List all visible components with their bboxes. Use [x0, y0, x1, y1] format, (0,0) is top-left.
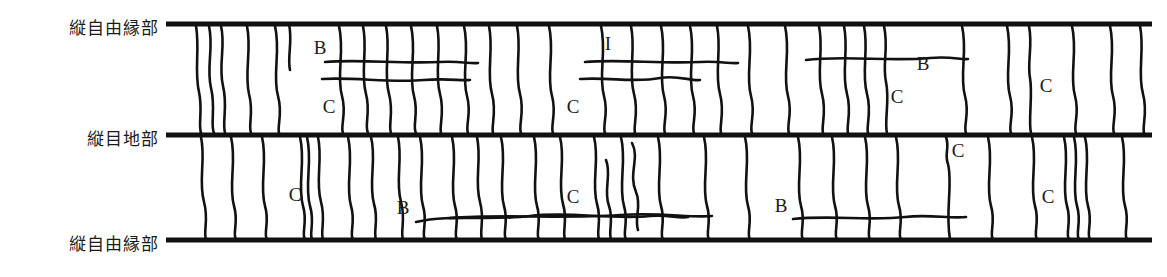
crack-code-b-4: B — [917, 53, 930, 74]
crack-lower-transverse-13 — [534, 137, 539, 239]
crack-lower-transverse-28 — [1032, 137, 1037, 239]
crack-upper-transverse-23 — [844, 26, 849, 133]
crack-upper-transverse-17 — [661, 26, 666, 133]
crack-lower-transverse-2 — [262, 137, 267, 239]
crack-lower-transverse-14 — [560, 137, 565, 239]
crack-lower-transverse-22 — [798, 137, 803, 239]
crack-lower-transverse-1 — [231, 137, 236, 239]
crack-map-figure: 縦自由縁部 縦目地部 縦自由縁部 BCICBCCCBCBCC — [0, 0, 1167, 277]
crack-lower-longitudinal-2 — [793, 216, 966, 219]
lower-band-transverse-cracks — [201, 137, 1127, 239]
crack-lower-transverse-21 — [745, 137, 750, 239]
crack-lower-transverse-31 — [1085, 137, 1090, 239]
crack-lower-transverse-4 — [307, 137, 312, 239]
crack-lower-transverse-12 — [501, 137, 506, 239]
crack-lower-transverse-16 — [606, 160, 611, 239]
crack-upper-transverse-3 — [247, 26, 251, 133]
crack-lower-transverse-25 — [896, 137, 901, 239]
crack-lower-transverse-11 — [477, 137, 482, 239]
crack-lower-transverse-6 — [348, 137, 353, 239]
crack-upper-transverse-12 — [489, 26, 494, 133]
crack-code-b-8: B — [397, 197, 410, 218]
crack-upper-transverse-4 — [275, 26, 280, 133]
crack-lower-transverse-9 — [420, 137, 425, 239]
crack-code-c-5: C — [891, 86, 904, 107]
crack-upper-transverse-19 — [717, 26, 722, 133]
crack-upper-longitudinal-0 — [325, 61, 478, 63]
crack-upper-transverse-25 — [884, 26, 887, 133]
crack-code-i-2: I — [605, 33, 611, 54]
crack-lower-transverse-26 — [946, 137, 950, 239]
crack-code-c-6: C — [1040, 75, 1053, 96]
crack-code-labels-group: BCICBCCCBCBCC — [289, 33, 1055, 218]
crack-upper-longitudinal-2 — [585, 61, 738, 63]
crack-upper-transverse-5 — [289, 24, 290, 70]
crack-lower-transverse-15 — [594, 137, 599, 239]
crack-code-c-3: C — [567, 96, 580, 117]
crack-lower-transverse-29 — [1064, 137, 1069, 239]
crack-lower-transverse-7 — [371, 137, 376, 239]
crack-lower-transverse-23 — [832, 137, 837, 239]
crack-upper-transverse-2 — [221, 26, 225, 133]
crack-code-c-12: C — [1042, 186, 1055, 207]
crack-upper-transverse-20 — [748, 26, 753, 133]
crack-code-b-0: B — [314, 37, 327, 58]
lower-band-longitudinal-cracks — [416, 214, 966, 222]
crack-lower-transverse-32 — [1122, 137, 1127, 239]
crack-lower-transverse-5 — [318, 137, 323, 239]
crack-upper-longitudinal-1 — [322, 79, 470, 81]
crack-lower-transverse-30 — [1074, 137, 1079, 239]
crack-upper-transverse-24 — [864, 26, 869, 133]
crack-upper-transverse-26 — [962, 26, 967, 133]
crack-upper-transverse-29 — [1072, 26, 1077, 133]
crack-upper-transverse-27 — [1007, 26, 1012, 133]
crack-upper-longitudinal-4 — [806, 57, 968, 60]
crack-lower-transverse-24 — [865, 137, 870, 239]
crack-lower-transverse-0 — [201, 137, 206, 239]
crack-lower-transverse-20 — [704, 137, 709, 239]
crack-upper-longitudinal-3 — [580, 77, 700, 80]
crack-upper-transverse-31 — [1140, 26, 1145, 133]
crack-lower-transverse-10 — [452, 137, 457, 239]
crack-upper-transverse-1 — [209, 26, 214, 133]
crack-code-c-11: C — [952, 140, 965, 161]
crack-upper-transverse-14 — [549, 26, 554, 133]
crack-code-b-10: B — [775, 195, 788, 216]
crack-upper-transverse-21 — [785, 26, 790, 133]
crack-upper-transverse-0 — [196, 26, 201, 133]
upper-band-longitudinal-cracks — [322, 57, 968, 80]
crack-lower-transverse-8 — [398, 137, 403, 239]
crack-lower-transverse-27 — [988, 137, 993, 239]
crack-pattern-svg: BCICBCCCBCBCC — [0, 0, 1167, 277]
crack-upper-transverse-22 — [819, 26, 824, 133]
crack-lower-transverse-17 — [621, 137, 626, 239]
crack-code-c-7: C — [289, 184, 302, 205]
crack-upper-transverse-30 — [1110, 26, 1115, 133]
crack-code-c-9: C — [567, 186, 580, 207]
crack-lower-transverse-19 — [658, 137, 663, 239]
crack-upper-transverse-13 — [517, 26, 522, 133]
crack-upper-transverse-28 — [1029, 26, 1031, 133]
crack-code-c-1: C — [323, 96, 336, 117]
